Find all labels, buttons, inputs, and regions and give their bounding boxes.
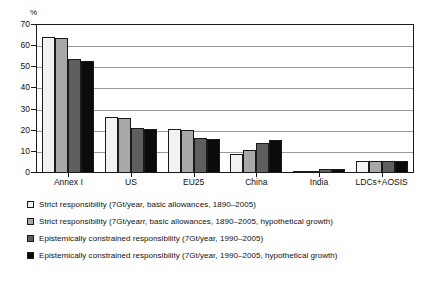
bar [319,169,332,172]
legend-item[interactable]: Epistemically constrained responsibility… [27,247,417,264]
y-axis-tick-mark [31,172,36,173]
bar [105,117,118,172]
bar-group [225,24,288,172]
y-axis-tick-mark [31,130,36,131]
bar [382,161,395,172]
legend-item-label: Strict responsibility (7Gt/year, basic a… [39,200,256,209]
bar [395,161,408,172]
bar [207,139,220,172]
bar [256,143,269,172]
legend-item[interactable]: Epistemically constrained responsibility… [27,230,417,247]
y-axis-tick-mark [31,24,36,25]
bar [68,59,81,172]
bar [293,171,306,172]
bar [81,61,94,172]
x-axis-tick-label: EU25 [183,177,204,187]
bar [144,129,157,172]
x-axis-tick-label: LDCs+AOSIS [356,177,408,187]
x-axis-tick-label: China [245,177,267,187]
y-axis-tick-mark [31,151,36,152]
legend-item[interactable]: Strict responsibility (7Gt/year, basic a… [27,196,417,213]
bar [369,161,382,172]
bar [42,37,55,172]
y-axis-tick-label: 40 [4,82,30,92]
chart-legend: Strict responsibility (7Gt/year, basic a… [27,196,417,264]
x-axis-tick-label: Annex I [54,177,83,187]
y-axis-tick-label: 70 [4,19,30,29]
x-axis-tick-label: US [125,177,137,187]
legend-item-label: Epistemically constrained responsibility… [39,234,263,243]
bar [356,161,369,172]
bar [181,130,194,172]
legend-swatch-icon [27,218,34,225]
y-axis-tick-label: 60 [4,40,30,50]
legend-item[interactable]: Strict responsibility (7Gt/yearr, basic … [27,213,417,230]
bar-group [37,24,100,172]
legend-item-label: Epistemically constrained responsibility… [39,251,338,260]
legend-item-label: Strict responsibility (7Gt/yearr, basic … [39,217,333,226]
bar-groups [37,24,413,172]
bar-group [288,24,351,172]
legend-swatch-icon [27,235,34,242]
bar [194,138,207,172]
bar [55,38,68,172]
unit-top-mark [31,0,33,7]
y-axis-tick-label: 20 [4,125,30,135]
bar-group [162,24,225,172]
y-axis-tick-mark [31,87,36,88]
y-axis-tick-mark [31,66,36,67]
y-axis-tick-label: 30 [4,104,30,114]
bar [230,154,243,172]
bar [332,169,345,172]
y-axis-tick-mark [31,45,36,46]
bar-group [100,24,163,172]
x-axis-tick-label: India [310,177,328,187]
bar [269,140,282,172]
bar [131,128,144,172]
y-axis-tick-label: 0 [4,167,30,177]
bar [243,150,256,172]
legend-swatch-icon [27,252,34,259]
bar [306,171,319,172]
bar-chart-figure: % 010203040506070 Annex IUSEU25ChinaIndi… [0,0,422,281]
y-axis-tick-mark [31,109,36,110]
y-axis-tick-label: 50 [4,61,30,71]
y-axis-tick-label: 10 [4,146,30,156]
bar-group [350,24,413,172]
bar [168,129,181,172]
legend-swatch-icon [27,201,34,208]
bar [118,118,131,172]
y-axis-unit-label: % [30,8,37,17]
